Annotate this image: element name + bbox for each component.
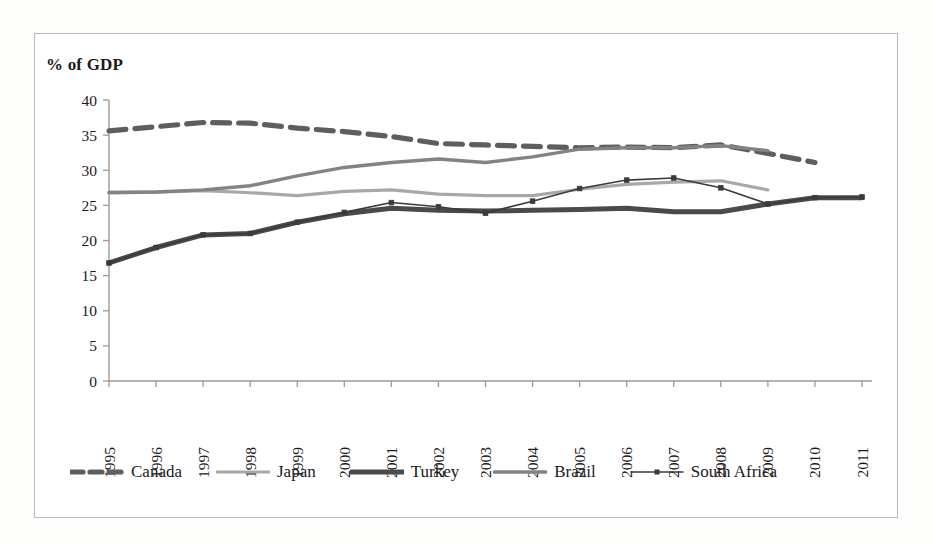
y-tick-label: 20 bbox=[82, 232, 98, 249]
solid-marker-swatch bbox=[630, 465, 684, 479]
y-axis: 0510152025303540 bbox=[82, 92, 110, 390]
x-axis bbox=[109, 381, 872, 387]
legend-label: Japan bbox=[277, 462, 316, 482]
series-marker-south-africa bbox=[201, 233, 206, 238]
legend-label: Turkey bbox=[411, 462, 460, 482]
y-tick-label: 5 bbox=[89, 337, 97, 354]
series-marker-south-africa bbox=[107, 261, 112, 266]
legend-item-south-africa[interactable]: South Africa bbox=[630, 462, 777, 482]
series-marker-south-africa bbox=[766, 202, 771, 207]
y-tick-label: 40 bbox=[82, 92, 98, 109]
series-marker-south-africa bbox=[342, 210, 347, 215]
series-marker-south-africa bbox=[577, 186, 582, 191]
legend-item-canada[interactable]: Canada bbox=[70, 462, 182, 482]
legend-label: South Africa bbox=[691, 462, 777, 482]
series-line-brazil bbox=[109, 146, 768, 193]
series-marker-south-africa bbox=[671, 176, 676, 181]
y-tick-label: 25 bbox=[82, 197, 98, 214]
legend-label: Brazil bbox=[554, 462, 596, 482]
y-tick-label: 15 bbox=[82, 267, 98, 284]
chart-legend: CanadaJapanTurkeyBrazilSouth Africa bbox=[70, 462, 870, 482]
solid-medium-swatch bbox=[493, 465, 547, 479]
series-marker-south-africa bbox=[719, 186, 724, 191]
series-marker-south-africa bbox=[248, 231, 253, 236]
solid-dark-thick-swatch bbox=[350, 465, 404, 479]
series-line-canada bbox=[109, 122, 815, 162]
legend-item-brazil[interactable]: Brazil bbox=[493, 462, 596, 482]
series-line-turkey bbox=[109, 198, 862, 263]
legend-item-turkey[interactable]: Turkey bbox=[350, 462, 460, 482]
series-marker-south-africa bbox=[154, 245, 159, 250]
y-tick-label: 0 bbox=[89, 373, 97, 390]
series-marker-south-africa bbox=[436, 204, 441, 209]
dashed-thick-swatch bbox=[70, 465, 124, 479]
series-marker-south-africa bbox=[813, 195, 818, 200]
series-marker-south-africa bbox=[295, 220, 300, 225]
series-marker-south-africa bbox=[389, 200, 394, 205]
series-marker-south-africa bbox=[530, 199, 535, 204]
series-marker-south-africa bbox=[860, 195, 865, 200]
figure-root: % of GDP 0510152025303540 19951996199719… bbox=[0, 0, 932, 544]
y-tick-label: 10 bbox=[82, 302, 98, 319]
y-tick-label: 30 bbox=[82, 162, 98, 179]
series-marker-south-africa bbox=[483, 211, 488, 216]
legend-label: Canada bbox=[131, 462, 182, 482]
solid-light-swatch bbox=[216, 465, 270, 479]
legend-item-japan[interactable]: Japan bbox=[216, 462, 316, 482]
y-tick-label: 35 bbox=[82, 127, 98, 144]
series-marker-south-africa bbox=[624, 178, 629, 183]
series-lines bbox=[107, 122, 865, 265]
